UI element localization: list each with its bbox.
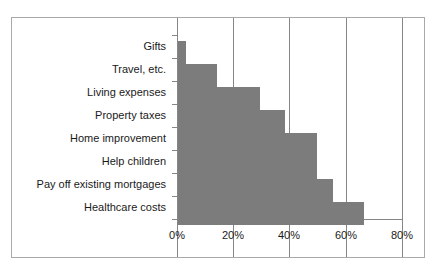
- x-axis-label-20: 20%: [222, 229, 244, 241]
- bar-row: [178, 133, 317, 156]
- category-label-pay-off-existing-mortgages: Pay off existing mortgages: [37, 178, 166, 190]
- plot-area: [177, 35, 402, 219]
- category-label-property-taxes: Property taxes: [95, 109, 166, 121]
- x-axis-label-0: 0%: [169, 229, 185, 241]
- bar-property-taxes[interactable]: [178, 110, 285, 133]
- x-axis-label-40: 40%: [278, 229, 300, 241]
- category-label-travel-etc: Travel, etc.: [112, 63, 166, 75]
- bar-travel-etc[interactable]: [178, 64, 217, 87]
- bar-help-children[interactable]: [178, 156, 317, 179]
- category-label-healthcare-costs: Healthcare costs: [84, 201, 166, 213]
- bar-row: [178, 156, 317, 179]
- bar-living-expenses[interactable]: [178, 87, 260, 110]
- category-label-gifts: Gifts: [143, 40, 166, 52]
- bar-row: [178, 41, 186, 64]
- bar-pay-off-existing-mortgages[interactable]: [178, 179, 333, 202]
- bar-healthcare-costs[interactable]: [178, 202, 364, 225]
- bar-row: [178, 110, 285, 133]
- bar-row: [178, 202, 364, 225]
- x-axis-label-80: 80%: [391, 229, 413, 241]
- bar-gifts[interactable]: [178, 41, 186, 64]
- bar-row: [178, 87, 260, 110]
- bar-row: [178, 64, 217, 87]
- bar-home-improvement[interactable]: [178, 133, 317, 156]
- x-axis-label-60: 60%: [335, 229, 357, 241]
- bar-series: [177, 35, 402, 219]
- bar-row: [178, 179, 333, 202]
- x-tick-80: [402, 219, 403, 224]
- chart-frame: Gifts Travel, etc. Living expenses Prope…: [11, 17, 425, 258]
- category-label-living-expenses: Living expenses: [87, 86, 166, 98]
- category-label-help-children: Help children: [102, 155, 166, 167]
- category-label-home-improvement: Home improvement: [70, 132, 166, 144]
